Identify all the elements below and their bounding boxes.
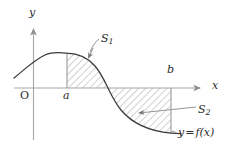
- region-s1-label: S1: [101, 33, 114, 46]
- y-axis-label: y: [29, 7, 35, 18]
- region-s1-letter: S: [101, 32, 109, 45]
- region-s1-subscript: 1: [109, 37, 114, 46]
- s1-leader-line: [90, 39, 99, 52]
- equation-close-paren: ): [210, 126, 214, 139]
- function-equation-label: y=f(x): [178, 127, 214, 138]
- region-s2-fill: [100, 84, 180, 140]
- fx-leader-line: [172, 131, 176, 133]
- point-b-label: b: [167, 64, 174, 75]
- region-s2-label: S2: [198, 104, 211, 117]
- math-figure: y x O a b S1 S2 y=f(x): [0, 0, 232, 150]
- region-s2-letter: S: [198, 103, 206, 116]
- equation-equals: =: [184, 126, 195, 139]
- x-axis-label: x: [212, 80, 218, 91]
- origin-label: O: [20, 90, 29, 101]
- region-s2-subscript: 2: [206, 108, 211, 117]
- point-a-label: a: [63, 90, 70, 101]
